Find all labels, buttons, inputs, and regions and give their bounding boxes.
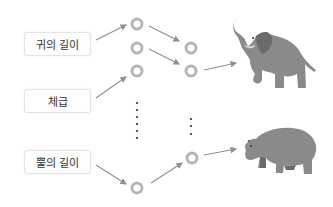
connection-arrow [149, 26, 179, 41]
elephant-icon [233, 18, 316, 88]
connection-arrow [204, 63, 236, 70]
hidden-node [186, 43, 196, 53]
ellipsis-dots-layer1 [136, 102, 138, 139]
hidden-node [186, 66, 196, 76]
connection-arrow [96, 77, 126, 98]
connection-arrow [151, 163, 182, 183]
hippo-icon [245, 128, 316, 174]
hidden-node [132, 66, 142, 76]
hidden-node [132, 183, 142, 193]
connection-arrow [204, 149, 236, 155]
hidden-node [187, 153, 197, 163]
network-diagram [0, 0, 333, 207]
hidden-node [132, 43, 142, 53]
connection-arrow [96, 165, 126, 184]
ellipsis-dots-layer2 [190, 118, 192, 135]
connection-arrow [96, 25, 126, 40]
hidden-node [132, 19, 142, 29]
connection-arrow [149, 49, 179, 64]
